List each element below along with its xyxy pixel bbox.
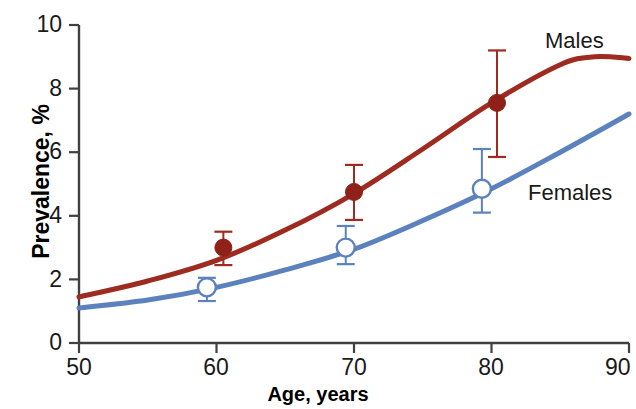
x-axis-title: Age, years xyxy=(0,383,636,406)
x-axis-ticks xyxy=(79,343,629,353)
x-tick-label-90: 90 xyxy=(605,356,636,379)
datapoint-females-1 xyxy=(337,226,355,264)
series-markers xyxy=(198,50,506,301)
prevalence-by-age-chart: 10 8 6 4 2 0 50 60 70 80 90 Prevalence, … xyxy=(0,0,636,409)
marker-open-circle xyxy=(198,278,216,296)
y-tick-label-10: 10 xyxy=(14,13,62,36)
marker-filled-circle xyxy=(215,239,232,256)
series-label-females: Females xyxy=(528,182,612,204)
y-tick-label-0: 0 xyxy=(14,331,62,354)
marker-filled-circle xyxy=(346,183,363,200)
series-label-males: Males xyxy=(545,30,604,52)
x-tick-label-80: 80 xyxy=(465,356,517,379)
datapoint-males-2 xyxy=(488,50,506,157)
marker-filled-circle xyxy=(489,94,506,111)
marker-open-circle xyxy=(337,239,355,257)
marker-open-circle xyxy=(473,180,491,198)
x-tick-label-50: 50 xyxy=(53,356,105,379)
datapoint-females-2 xyxy=(473,149,491,213)
y-axis-title: Prevalence, % xyxy=(28,67,55,297)
x-tick-label-70: 70 xyxy=(328,356,380,379)
datapoint-males-1 xyxy=(345,165,363,220)
datapoint-females-0 xyxy=(198,278,216,301)
x-tick-label-60: 60 xyxy=(190,356,242,379)
